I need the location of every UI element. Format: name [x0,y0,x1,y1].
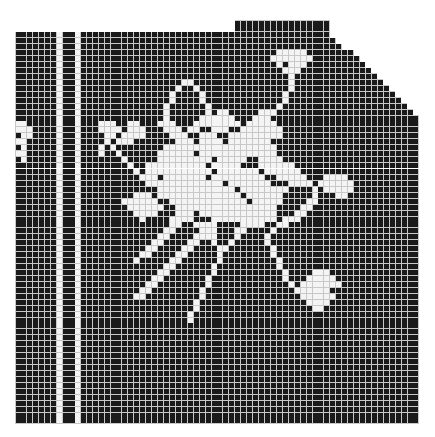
filled-cell [116,211,121,216]
filled-cell [396,217,401,222]
filled-cell [372,181,377,186]
open-cell [176,258,181,263]
filled-cell [348,264,353,269]
filled-cell [182,270,187,275]
filled-cell [402,323,407,328]
filled-cell [206,38,211,43]
filled-cell [313,104,318,109]
filled-cell [105,294,110,299]
filled-cell [99,252,104,257]
filled-cell [360,264,365,269]
filled-cell [152,56,157,61]
filled-cell [21,205,26,210]
filled-cell [128,145,133,150]
filled-cell [354,157,359,162]
filled-cell [223,98,228,103]
filled-cell [384,234,389,239]
filled-cell [16,104,21,109]
filled-cell [408,276,413,281]
filled-cell [402,383,407,388]
open-cell [301,62,306,67]
filled-cell [81,418,86,423]
filled-cell [39,264,44,269]
filled-cell [105,353,110,358]
filled-cell [324,133,329,138]
open-cell [271,211,276,216]
filled-cell [277,306,282,311]
filled-cell [313,359,318,364]
filled-cell [384,294,389,299]
filled-cell [265,26,270,31]
filled-cell [188,92,193,97]
filled-cell [27,377,32,382]
filled-cell [271,389,276,394]
filled-cell [366,294,371,299]
filled-cell [81,175,86,180]
filled-cell [384,187,389,192]
open-cell [176,252,181,257]
open-cell [152,276,157,281]
filled-cell [253,26,258,31]
filled-cell [384,228,389,233]
open-cell [194,240,199,245]
filled-cell [16,175,21,180]
filled-cell [378,110,383,115]
filled-cell [259,359,264,364]
filled-cell [122,234,127,239]
filled-cell [277,359,282,364]
filled-cell [307,359,312,364]
filled-cell [188,74,193,79]
open-cell [182,163,187,168]
filled-cell [396,383,401,388]
filled-cell [206,300,211,305]
filled-cell [324,110,329,115]
filled-cell [81,276,86,281]
filled-cell [372,377,377,382]
filled-cell [16,276,21,281]
filled-cell [164,312,169,317]
filled-cell [253,300,258,305]
filled-cell [330,157,335,162]
filled-cell [39,329,44,334]
filled-cell [39,359,44,364]
filled-cell [21,288,26,293]
filled-cell [259,44,264,49]
open-cell [57,228,62,233]
filled-cell [105,288,110,293]
filled-cell [122,205,127,210]
filled-cell [111,50,116,55]
filled-cell [271,32,276,37]
open-cell [57,211,62,216]
filled-cell [348,222,353,227]
filled-cell [289,335,294,340]
filled-cell [146,62,151,67]
filled-cell [116,68,121,73]
filled-cell [16,300,21,305]
filled-cell [295,193,300,198]
filled-cell [33,38,38,43]
filled-cell [348,62,353,67]
open-cell [75,74,80,79]
filled-cell [206,217,211,222]
filled-cell [384,222,389,227]
filled-cell [235,21,240,26]
filled-cell [158,323,163,328]
filled-cell [188,323,193,328]
filled-cell [259,32,264,37]
filled-cell [140,407,145,412]
filled-cell [45,62,50,67]
filled-cell [128,418,133,423]
filled-cell [271,80,276,85]
filled-cell [81,80,86,85]
filled-cell [402,252,407,257]
filled-cell [87,359,92,364]
filled-cell [271,300,276,305]
filled-cell [99,347,104,352]
filled-cell [188,116,193,121]
filled-cell [200,407,205,412]
filled-cell [33,228,38,233]
open-cell [146,181,151,186]
filled-cell [140,240,145,245]
filled-cell [390,407,395,412]
filled-cell [289,127,294,132]
